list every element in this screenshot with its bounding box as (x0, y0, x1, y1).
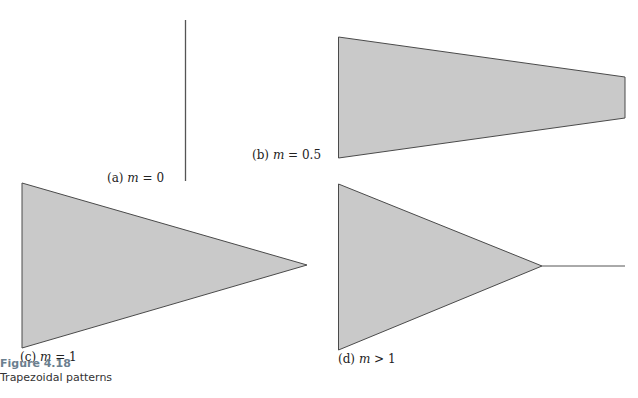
panel-b-var: m (273, 148, 284, 162)
panel-d-prefix: (d) (338, 352, 355, 366)
panel-b-label: (b) m = 0.5 (252, 148, 321, 162)
panel-d-var: m (359, 352, 370, 366)
panel-a-label: (a) m = 0 (107, 171, 164, 185)
figure-number: Figure 4.18 (0, 357, 71, 370)
figure-caption: Trapezoidal patterns (0, 371, 112, 384)
panel-a-relation: = 0 (143, 171, 165, 185)
panel-b-trapezoid (339, 37, 626, 158)
panel-d-relation: > 1 (374, 352, 396, 366)
panel-c-triangle (22, 183, 307, 348)
panel-a-prefix: (a) (107, 171, 124, 185)
panel-b-relation: = 0.5 (288, 148, 321, 162)
panel-a-var: m (127, 171, 138, 185)
panel-d-triangle (339, 184, 543, 350)
panel-b-prefix: (b) (252, 148, 269, 162)
panel-d-label: (d) m > 1 (338, 352, 396, 366)
trapezoidal-patterns-figure (0, 0, 638, 398)
